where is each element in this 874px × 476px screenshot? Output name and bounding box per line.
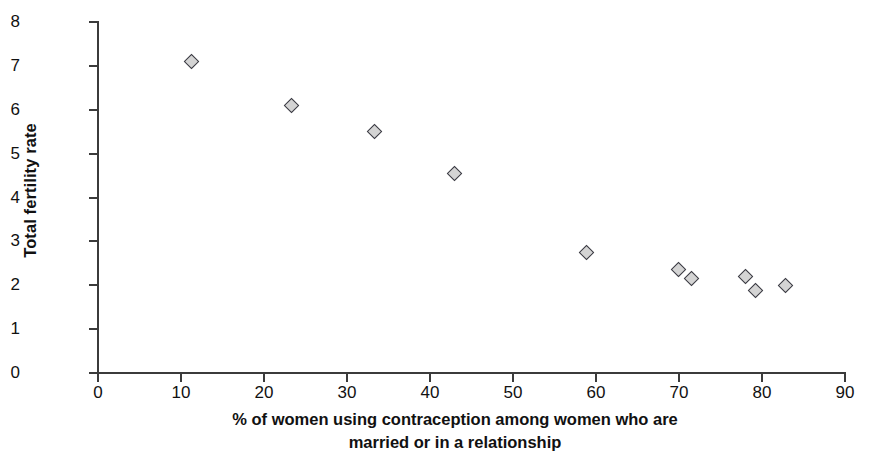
x-axis-title-line-1: % of women using contraception among wom… (232, 410, 678, 428)
x-tick-90 (844, 374, 846, 382)
x-tick-20 (263, 374, 265, 382)
y-tick-3 (89, 240, 97, 242)
y-tick-label-6: 6 (0, 101, 20, 118)
x-tick-label-60: 60 (573, 384, 619, 401)
y-tick-label-3: 3 (0, 232, 20, 249)
x-tick-label-20: 20 (241, 384, 287, 401)
x-tick-0 (97, 374, 99, 382)
plot-area (98, 22, 845, 373)
data-point (684, 271, 700, 287)
y-tick-7 (89, 65, 97, 67)
x-tick-label-30: 30 (324, 384, 370, 401)
x-axis-title: % of women using contraception among wom… (60, 408, 850, 455)
data-point (578, 245, 594, 261)
x-tick-label-50: 50 (490, 384, 536, 401)
y-tick-8 (89, 21, 97, 23)
x-tick-10 (180, 374, 182, 382)
x-tick-60 (595, 374, 597, 382)
y-tick-label-2: 2 (0, 276, 20, 293)
x-tick-70 (678, 374, 680, 382)
y-axis-title-label: Total fertility rate (21, 123, 40, 258)
y-tick-label-5: 5 (0, 145, 20, 162)
y-tick-label-4: 4 (0, 189, 20, 206)
x-tick-50 (512, 374, 514, 382)
x-tick-label-80: 80 (739, 384, 785, 401)
y-tick-5 (89, 153, 97, 155)
y-tick-1 (89, 328, 97, 330)
x-tick-label-10: 10 (158, 384, 204, 401)
data-point (184, 54, 200, 70)
data-point (284, 98, 300, 114)
y-tick-2 (89, 284, 97, 286)
data-point (367, 124, 383, 140)
data-point (777, 277, 793, 293)
y-tick-label-1: 1 (0, 320, 20, 337)
y-tick-label-8: 8 (0, 13, 20, 30)
x-tick-label-90: 90 (822, 384, 868, 401)
scatter-chart: Total fertility rate 012345678 010203040… (0, 0, 874, 476)
x-tick-80 (761, 374, 763, 382)
x-tick-label-40: 40 (407, 384, 453, 401)
y-tick-4 (89, 197, 97, 199)
data-point (748, 283, 764, 299)
x-tick-label-0: 0 (75, 384, 121, 401)
y-tick-label-0: 0 (0, 364, 20, 381)
data-point (738, 269, 754, 285)
data-point (670, 262, 686, 278)
y-tick-0 (89, 372, 97, 374)
x-tick-label-70: 70 (656, 384, 702, 401)
x-axis-title-line-2: married or in a relationship (60, 431, 850, 454)
data-point (447, 166, 463, 182)
y-tick-6 (89, 109, 97, 111)
x-tick-30 (346, 374, 348, 382)
x-tick-40 (429, 374, 431, 382)
y-tick-label-7: 7 (0, 57, 20, 74)
